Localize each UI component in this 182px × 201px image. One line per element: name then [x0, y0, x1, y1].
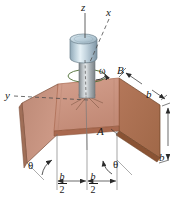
axis-label-z: z [81, 2, 85, 13]
angle-label-theta-left: θ [28, 160, 33, 171]
half-b-right-denominator: 2 [85, 185, 101, 196]
dimension-label-half-b-right: b 2 [85, 172, 101, 195]
mechanics-figure: z x y ω B A b b θ θ b 2 b 2 [0, 0, 182, 201]
point-label-a: A [97, 126, 104, 137]
point-label-b: B [117, 65, 124, 76]
rotor-cylinder [70, 34, 97, 63]
axis-label-x: x [106, 7, 111, 18]
axis-label-y: y [5, 90, 10, 101]
shaft [79, 57, 95, 98]
dimension-label-b-top-right: b [146, 89, 152, 100]
angle-label-theta-right: θ [113, 159, 118, 170]
angular-velocity-label-omega: ω [99, 66, 106, 76]
half-b-left-numerator: b [54, 172, 70, 183]
half-b-right-numerator: b [85, 172, 101, 183]
half-b-left-denominator: 2 [54, 185, 70, 196]
dimension-label-b-bottom-right: b [159, 152, 165, 163]
dimension-label-half-b-left: b 2 [54, 172, 70, 195]
